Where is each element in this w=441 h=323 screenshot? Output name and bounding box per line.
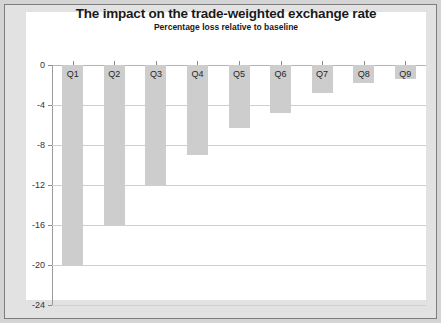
y-tick-mark — [48, 185, 52, 186]
x-axis-category-label: Q8 — [343, 69, 385, 79]
y-tick-label: -8 — [37, 140, 45, 150]
y-tick-mark — [48, 265, 52, 266]
y-tick-mark — [48, 225, 52, 226]
x-axis-category-label: Q7 — [301, 69, 343, 79]
bar — [145, 65, 166, 185]
gridline — [52, 225, 426, 226]
x-axis-category-label: Q3 — [135, 69, 177, 79]
y-tick-label: -12 — [32, 180, 45, 190]
x-axis-category-label: Q4 — [177, 69, 219, 79]
chart-title: The impact on the trade-weighted exchang… — [26, 6, 426, 21]
x-axis-category-label: Q1 — [52, 69, 94, 79]
x-axis-category-label: Q6 — [260, 69, 302, 79]
plot-area: 0-4-8-12-16-20-24 Q1Q2Q3Q4Q5Q6Q7Q8Q9 — [52, 65, 426, 305]
y-tick-mark — [48, 65, 52, 66]
y-tick-label: -4 — [37, 100, 45, 110]
title-block: The impact on the trade-weighted exchang… — [26, 6, 426, 32]
y-tick-mark — [48, 105, 52, 106]
x-axis-category-label: Q5 — [218, 69, 260, 79]
bar — [62, 65, 83, 265]
y-tick-label: -20 — [32, 260, 45, 270]
figure: The impact on the trade-weighted exchang… — [0, 0, 441, 323]
y-tick-mark — [48, 145, 52, 146]
y-tick-label: -24 — [32, 300, 45, 310]
y-tick-mark — [48, 305, 52, 306]
gridline — [52, 265, 426, 266]
y-tick-label: -16 — [32, 220, 45, 230]
bar — [104, 65, 125, 225]
x-axis-category-label: Q9 — [384, 69, 426, 79]
x-axis-category-label: Q2 — [94, 69, 136, 79]
chart-subtitle: Percentage loss relative to baseline — [26, 22, 426, 32]
y-tick-label: 0 — [40, 60, 45, 70]
gridline — [52, 305, 426, 306]
